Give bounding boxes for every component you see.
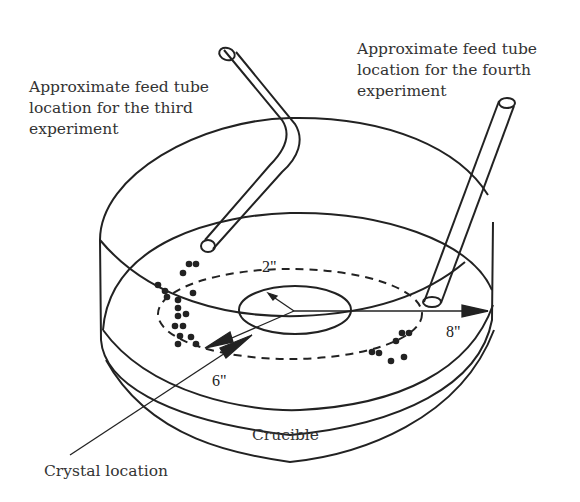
- arrow-8in-head: [462, 305, 488, 317]
- fourth-tube-label: Approximate feed tube location for the f…: [357, 39, 537, 102]
- crucible-left-wall: [100, 222, 493, 435]
- fourth-feed-tube: [423, 98, 515, 307]
- fourth-tube-label-line3: experiment: [357, 81, 537, 102]
- third-tube-label-line3: experiment: [29, 119, 209, 140]
- inner-radius-label: 2": [262, 258, 277, 276]
- third-tube-label-line2: location for the third: [29, 98, 209, 119]
- deposit-dots-left: [155, 261, 200, 348]
- third-tube-label: Approximate feed tube location for the t…: [29, 77, 209, 140]
- crystal-ellipse-2in: [239, 286, 351, 334]
- crystal-location-label: Crystal location: [44, 461, 168, 482]
- third-tube-label-line1: Approximate feed tube: [29, 77, 209, 98]
- fourth-tube-label-line2: location for the fourth: [357, 60, 537, 81]
- third-feed-tube: [201, 46, 300, 252]
- deposit-dots-right: [369, 330, 413, 365]
- crucible-back-line: [100, 240, 465, 316]
- outer-radius-label: 8": [446, 323, 461, 341]
- mid-radius-label: 6": [212, 372, 227, 390]
- crucible-label: Crucible: [252, 425, 319, 446]
- melt-surface-outer: [103, 213, 492, 330]
- crucible-diagram: Approximate feed tube location for the t…: [0, 0, 580, 502]
- fourth-tube-label-line1: Approximate feed tube: [357, 39, 537, 60]
